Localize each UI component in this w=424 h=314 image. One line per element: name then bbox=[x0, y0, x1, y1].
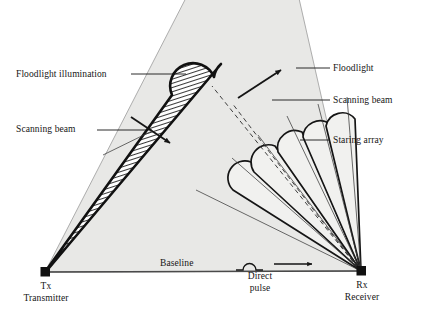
label-direct-pulse-line2: pulse bbox=[232, 283, 288, 293]
label-scanning-beam-left: Scanning beam bbox=[16, 124, 76, 134]
baseline-line bbox=[45, 271, 361, 272]
label-scanning-beam-right: Scanning beam bbox=[333, 95, 393, 105]
label-staring-array: Staring array bbox=[333, 135, 384, 145]
label-transmitter: Transmitter bbox=[4, 293, 88, 303]
label-tx: Tx bbox=[22, 281, 70, 291]
label-baseline: Baseline bbox=[160, 258, 194, 268]
label-floodlight: Floodlight bbox=[333, 63, 374, 73]
receiver-marker bbox=[357, 266, 367, 276]
label-receiver: Receiver bbox=[320, 292, 404, 302]
transmitter-marker bbox=[41, 267, 51, 277]
label-floodlight-illumination: Floodlight illumination bbox=[16, 69, 107, 79]
bistatic-radar-diagram bbox=[0, 0, 424, 314]
label-rx: Rx bbox=[338, 280, 386, 290]
label-direct-pulse-line1: Direct bbox=[232, 271, 288, 281]
